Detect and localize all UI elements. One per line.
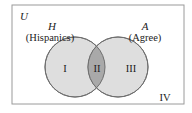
set-a-symbol: A: [141, 20, 149, 32]
universe-label: U: [20, 10, 29, 22]
region-iii-label: III: [126, 63, 137, 74]
set-h-symbol: H: [47, 20, 57, 32]
set-h-name: (Hispanics): [26, 32, 75, 44]
venn-diagram: U H (Hispanics) A (Agree) I II III IV: [0, 0, 192, 113]
region-i-label: I: [63, 63, 67, 74]
region-iv-label: IV: [159, 92, 170, 103]
region-ii-label: II: [94, 63, 101, 74]
set-a-name: (Agree): [129, 32, 162, 44]
